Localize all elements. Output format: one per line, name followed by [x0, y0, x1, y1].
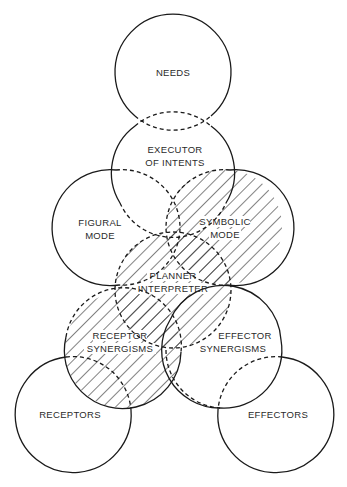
needs-label: NEEDS: [156, 67, 190, 78]
figural-label-2: MODE: [85, 230, 115, 241]
receptors-label: RECEPTORS: [39, 409, 101, 420]
symbolic-label-1: SYMBOLIC: [199, 216, 251, 227]
hierarchical-overlap-diagram: NEEDS EXECUTOR OF INTENTS FIGURAL MODE S…: [0, 0, 347, 487]
symbolic-label-2: MODE: [210, 229, 240, 240]
needs-circle-dashed: [135, 116, 211, 130]
receptor-syn-label-2: SYNERGISMS: [87, 343, 153, 354]
planner-label-2: INTERPRETER: [138, 283, 208, 294]
executor-circle: [135, 112, 211, 126]
needs-circle: [115, 14, 231, 116]
planner-label-1: PLANNER: [150, 270, 197, 281]
figural-label-1: FIGURAL: [78, 217, 121, 228]
effector-syn-label-1: EFFECTOR: [218, 330, 271, 341]
effector-syn-label-2: SYNERGISMS: [200, 343, 266, 354]
receptor-syn-label-1: RECEPTOR: [92, 330, 147, 341]
executor-label-2: OF INTENTS: [145, 157, 204, 168]
executor-circle-left: [111, 126, 135, 203]
effectors-label: EFFECTORS: [248, 409, 308, 420]
executor-label-1: EXECUTOR: [147, 144, 202, 155]
